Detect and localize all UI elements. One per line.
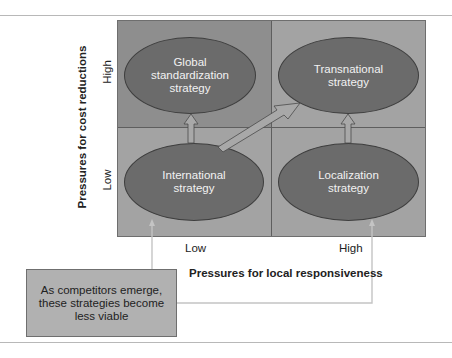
ellipse-line: International: [162, 169, 225, 182]
callout-box: As competitors emerge, these strategies …: [26, 269, 177, 337]
transnational-ellipse: Transnational strategy: [278, 37, 419, 114]
top-rule: [0, 15, 452, 16]
x-axis-title: Pressures for local responsiveness: [189, 267, 383, 279]
callout-line: As competitors emerge,: [39, 284, 164, 297]
x-axis-high-label: High: [339, 242, 363, 254]
ellipse-line: strategy: [151, 82, 229, 95]
x-axis-low-label: Low: [185, 242, 206, 254]
bottom-rule: [0, 342, 452, 343]
y-axis-title: Pressures for cost reductions: [76, 39, 88, 215]
ellipse-line: standardization: [151, 69, 229, 82]
ellipse-line: Localization: [318, 169, 379, 182]
global-standardization-ellipse: Global standardization strategy: [124, 37, 256, 114]
y-axis-low-label: Low: [101, 165, 113, 195]
ellipse-line: Transnational: [314, 63, 383, 76]
callout-line: less viable: [39, 310, 164, 323]
localization-ellipse: Localization strategy: [278, 143, 419, 221]
y-axis-high-label: High: [101, 57, 113, 87]
ellipse-line: strategy: [314, 76, 383, 89]
ellipse-line: Global: [151, 56, 229, 69]
international-ellipse: International strategy: [124, 143, 264, 221]
ellipse-line: strategy: [162, 182, 225, 195]
callout-line: these strategies become: [39, 297, 164, 310]
ellipse-line: strategy: [318, 182, 379, 195]
